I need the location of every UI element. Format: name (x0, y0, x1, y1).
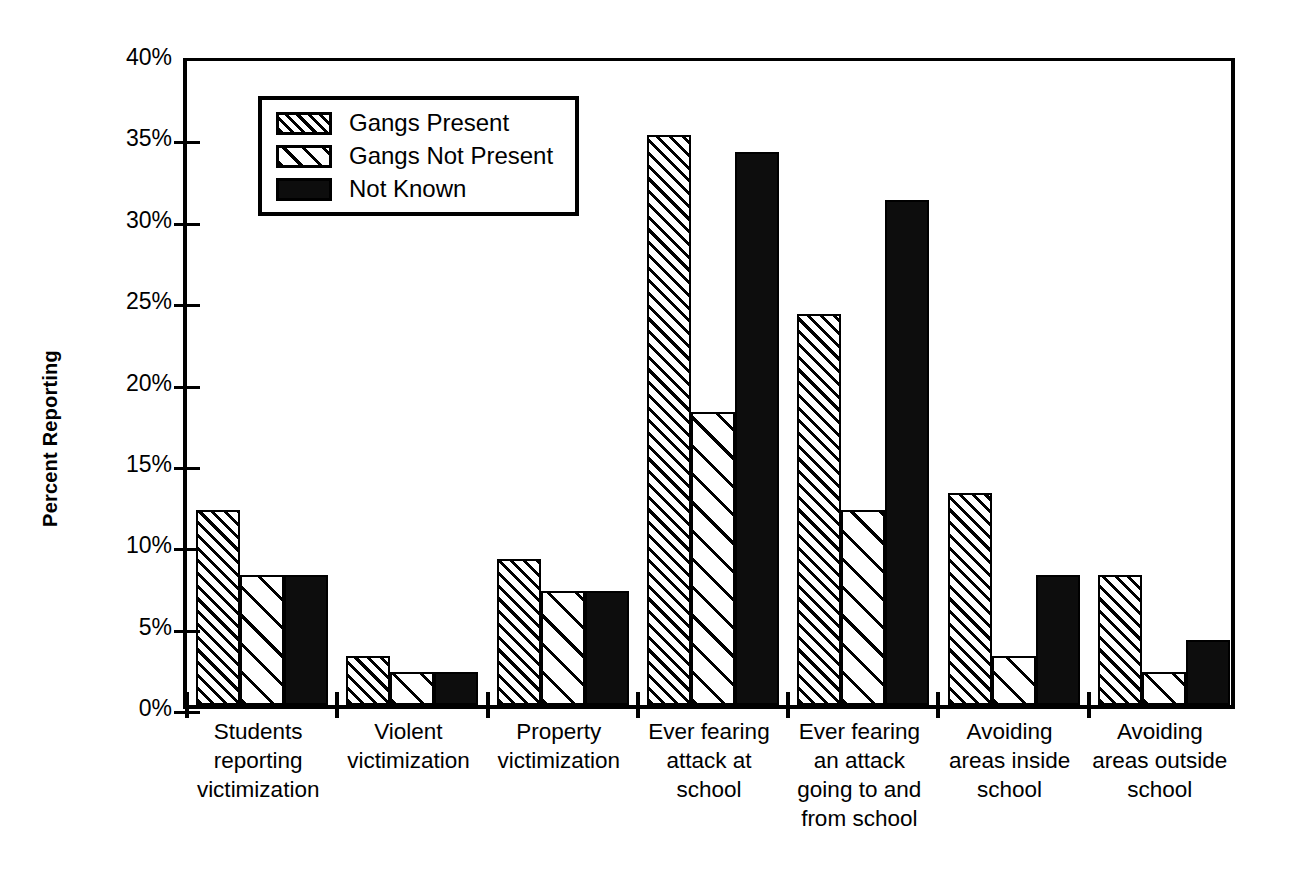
bar (585, 591, 629, 705)
x-axis-group-tick (486, 692, 490, 718)
y-axis-title: Percent Reporting (0, 0, 100, 877)
x-axis-category-labels: Students reporting victimizationViolent … (183, 717, 1235, 867)
legend-item-label: Gangs Not Present (349, 143, 553, 169)
y-axis-tick-label: 30% (96, 209, 172, 232)
y-axis-tick-mark (174, 141, 200, 144)
x-axis-group-tick (185, 692, 189, 718)
bar (735, 152, 779, 705)
x-axis-category-label: Avoiding areas inside school (934, 717, 1084, 804)
x-axis-category-label: Ever fearing attack at school (634, 717, 784, 804)
y-axis-tick-mark (174, 630, 200, 633)
bar (390, 672, 434, 705)
bar (691, 412, 735, 705)
y-axis-tick-label: 5% (96, 616, 172, 639)
x-axis-group-tick (335, 692, 339, 718)
y-axis-tick-label: 15% (96, 453, 172, 476)
legend-swatch-icon (276, 178, 332, 201)
y-axis-tick-label: 20% (96, 372, 172, 395)
y-axis-tick-label: 0% (96, 697, 172, 720)
y-axis-tick-mark (174, 711, 200, 714)
bar (434, 672, 478, 705)
legend-item-label: Not Known (349, 176, 466, 202)
x-axis-category-label: Avoiding areas outside school (1085, 717, 1235, 804)
x-axis-group-tick (786, 692, 790, 718)
y-axis-tick-mark (174, 304, 200, 307)
legend-item-label: Gangs Present (349, 110, 509, 136)
bar (1186, 640, 1230, 705)
x-axis-category-label: Students reporting victimization (183, 717, 333, 804)
bar (196, 510, 240, 705)
bar (284, 575, 328, 705)
y-axis-tick-label: 25% (96, 290, 172, 313)
legend-item[interactable]: Gangs Present (276, 110, 553, 136)
y-axis-tick-label: 35% (96, 127, 172, 150)
bar (992, 656, 1036, 705)
legend-item[interactable]: Gangs Not Present (276, 143, 553, 169)
bar (885, 200, 929, 705)
y-axis-tick-labels: 40%35%30%25%20%15%10%5%0% (96, 0, 172, 877)
y-axis-tick-mark (174, 467, 200, 470)
bar (240, 575, 284, 705)
legend-item[interactable]: Not Known (276, 176, 553, 202)
y-axis-tick-label: 40% (96, 46, 172, 69)
x-axis-group-tick (636, 692, 640, 718)
bar (1036, 575, 1080, 705)
bar (797, 314, 841, 705)
bar (948, 493, 992, 705)
y-axis-tick-mark (174, 223, 200, 226)
bar (647, 135, 691, 705)
x-axis-group-tick (936, 692, 940, 718)
bar (1142, 672, 1186, 705)
y-axis-title-text: Percent Reporting (39, 350, 62, 527)
y-axis-tick-label: 10% (96, 534, 172, 557)
bar (1098, 575, 1142, 705)
y-axis-tick-mark (174, 548, 200, 551)
legend-swatch-icon (276, 112, 332, 135)
legend-swatch-icon (276, 145, 332, 168)
x-axis-category-label: Violent victimization (333, 717, 483, 775)
bar (541, 591, 585, 705)
x-axis-category-label: Ever fearing an attack going to and from… (784, 717, 934, 833)
bar (841, 510, 885, 705)
y-axis-tick-mark (174, 386, 200, 389)
x-axis-category-label: Property victimization (484, 717, 634, 775)
bar (346, 656, 390, 705)
legend: Gangs PresentGangs Not PresentNot Known (258, 96, 579, 216)
bar-chart: Percent Reporting 40%35%30%25%20%15%10%5… (0, 0, 1305, 877)
bar (497, 559, 541, 705)
x-axis-group-tick (1087, 692, 1091, 718)
